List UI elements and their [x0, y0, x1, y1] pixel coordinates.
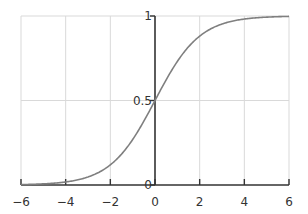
tick-labels: −6−4−2024600.51 [12, 9, 293, 209]
x-tick-label: −6 [12, 195, 30, 209]
x-tick-label: 2 [196, 195, 204, 209]
y-tick-label: 0 [144, 178, 152, 192]
x-tick-label: 4 [241, 195, 249, 209]
x-tick-label: 6 [285, 195, 293, 209]
x-tick-label: −2 [101, 195, 119, 209]
y-tick-label: 0.5 [133, 94, 152, 108]
x-tick-label: −4 [57, 195, 75, 209]
y-tick-label: 1 [144, 9, 152, 23]
x-tick-label: 0 [151, 195, 159, 209]
sigmoid-chart: −6−4−2024600.51 [0, 0, 308, 214]
